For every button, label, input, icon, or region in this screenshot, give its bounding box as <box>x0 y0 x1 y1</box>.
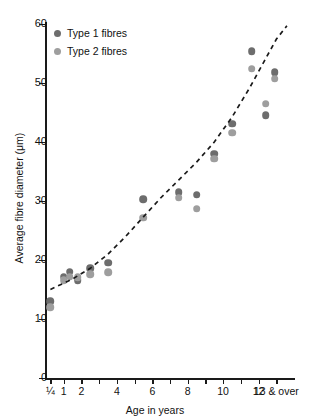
y-tick-label: 60 <box>7 18 47 29</box>
data-point <box>193 191 201 199</box>
legend-label-type-1: Type 1 fibres <box>67 28 127 39</box>
data-point <box>87 270 95 278</box>
x-tick-label: 6 <box>149 386 155 397</box>
data-point <box>74 273 82 281</box>
data-point <box>175 194 183 202</box>
data-point <box>104 259 112 267</box>
x-tick <box>64 378 65 384</box>
x-tick <box>259 378 260 384</box>
plot-area <box>46 24 294 378</box>
data-point <box>211 155 219 163</box>
x-tick <box>170 378 171 384</box>
x-axis-title: Age in years <box>0 404 310 416</box>
legend-label-type-2: Type 2 fibres <box>67 46 127 57</box>
data-point <box>47 303 55 311</box>
x-tick <box>152 378 153 384</box>
legend-marker-type-1-icon <box>54 30 61 37</box>
data-point <box>66 273 74 281</box>
data-point <box>271 75 279 83</box>
x-tick <box>241 378 242 384</box>
legend-marker-type-2-icon <box>54 48 61 55</box>
x-tick-label: 10 <box>217 386 229 397</box>
data-point <box>262 100 270 108</box>
x-tick-label: 8 <box>185 386 191 397</box>
x-tick <box>223 378 224 384</box>
x-tick-label: 2 <box>78 386 84 397</box>
x-tick <box>276 378 277 384</box>
x-tick-label: ¼ <box>46 386 55 397</box>
x-tick <box>188 378 189 384</box>
chart-legend: Type 1 fibres Type 2 fibres <box>54 26 127 62</box>
fibre-diameter-scatter-chart: 0102030405060 ¼12468101213 & over Type 1… <box>0 0 310 418</box>
x-tick-label: 13 & over <box>254 386 299 397</box>
data-point <box>262 112 270 120</box>
data-point <box>140 195 148 203</box>
x-tick <box>135 378 136 384</box>
legend-item-type-1: Type 1 fibres <box>54 26 127 41</box>
data-point <box>104 269 112 277</box>
data-point <box>228 129 236 137</box>
x-tick-label: 4 <box>114 386 120 397</box>
data-point <box>193 205 201 213</box>
data-point <box>228 120 236 128</box>
x-tick <box>81 378 82 384</box>
legend-item-type-2: Type 2 fibres <box>54 44 127 59</box>
data-point <box>140 214 148 222</box>
x-tick <box>205 378 206 384</box>
x-tick <box>50 378 51 384</box>
y-axis-title: Average fibre diameter (μm) <box>13 83 25 313</box>
x-tick <box>117 378 118 384</box>
x-tick-label: 1 <box>61 386 67 397</box>
y-tick-label: 0 <box>7 372 47 383</box>
x-tick <box>99 378 100 384</box>
data-point <box>248 65 256 73</box>
y-tick-label: 10 <box>7 313 47 324</box>
data-point <box>248 47 256 55</box>
